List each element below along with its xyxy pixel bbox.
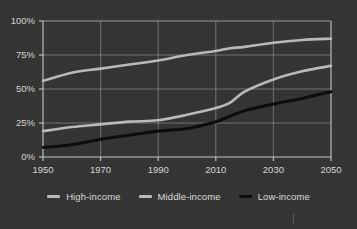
x-axis-tick-labels: 195019701990201020302050: [32, 164, 341, 175]
legend-swatch-icon: [239, 195, 252, 198]
chart-legend: High-incomeMiddle-incomeLow-income: [0, 186, 357, 206]
series-line-middle-income: [43, 66, 331, 131]
y-axis-tick-label: 25%: [16, 117, 36, 128]
legend-swatch-icon: [47, 195, 60, 198]
legend-label: Low-income: [258, 191, 310, 202]
series-line-low-income: [43, 92, 331, 148]
legend-item-middle-income[interactable]: Middle-income: [139, 191, 221, 202]
x-axis-tick-label: 2010: [205, 164, 226, 175]
decorative-tick-mark: [293, 214, 294, 223]
chart-container: 0%25%50%75%100% 195019701990201020302050…: [0, 0, 357, 229]
y-axis-tick-labels: 0%25%50%75%100%: [11, 15, 36, 162]
legend-item-high-income[interactable]: High-income: [47, 191, 120, 202]
y-axis-tick-label: 100%: [11, 15, 36, 26]
x-axis-tick-label: 1950: [32, 164, 53, 175]
y-axis-tick-label: 0%: [21, 151, 35, 162]
legend-item-low-income[interactable]: Low-income: [239, 191, 310, 202]
legend-label: High-income: [66, 191, 120, 202]
y-axis-tick-label: 50%: [16, 83, 36, 94]
legend-label: Middle-income: [158, 191, 221, 202]
y-axis-tick-label: 75%: [16, 49, 36, 60]
x-axis-tick-label: 2050: [320, 164, 341, 175]
x-axis-tick-label: 1970: [90, 164, 111, 175]
legend-swatch-icon: [139, 195, 152, 198]
x-axis-tick-label: 2030: [263, 164, 284, 175]
x-axis-tick-label: 1990: [148, 164, 169, 175]
